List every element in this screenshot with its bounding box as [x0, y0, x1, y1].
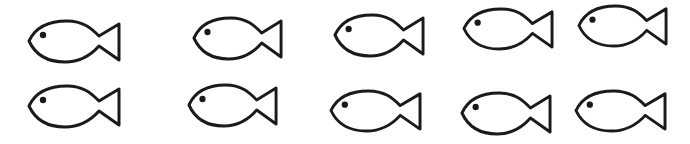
fish-eye — [40, 32, 46, 38]
fish-icon-r2-c2 — [187, 82, 278, 128]
fish-eye — [473, 104, 479, 110]
fish-eye — [204, 29, 210, 35]
fish-icon-r2-c1 — [27, 83, 121, 129]
fish-eye — [199, 96, 205, 102]
fish-eye — [342, 102, 348, 108]
fish-icon-r1-c4 — [462, 6, 554, 51]
fish-icon-r2-c3 — [329, 88, 422, 133]
fish-eye — [475, 20, 481, 26]
fish-outline-icon — [462, 6, 554, 51]
fish-icon-r1-c3 — [333, 12, 425, 58]
fish-outline-icon — [460, 90, 552, 136]
fish-eye — [589, 17, 595, 23]
fish-outline-icon — [333, 12, 425, 58]
fish-icon-r1-c1 — [27, 18, 121, 64]
fish-outline-icon — [574, 88, 667, 133]
fish-outline-icon — [192, 15, 283, 61]
fish-eye — [587, 102, 593, 108]
fish-outline-icon — [577, 3, 668, 48]
fish-outline-icon — [27, 83, 121, 129]
fish-icon-r1-c2 — [192, 15, 283, 61]
fish-icon-r2-c5 — [574, 88, 667, 133]
fish-eye — [346, 26, 352, 32]
fish-outline-icon — [187, 82, 278, 128]
fish-outline-icon — [329, 88, 422, 133]
fish-icon-r1-c5 — [577, 3, 668, 48]
fish-eye — [40, 97, 46, 103]
fish-outline-icon — [27, 18, 121, 64]
fish-icon-r2-c4 — [460, 90, 552, 136]
